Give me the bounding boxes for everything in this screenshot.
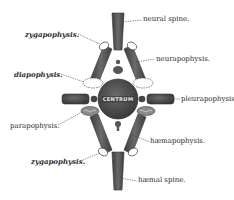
label-parapophysis: parapophysis. [10,123,59,130]
haemal-spine [112,152,124,190]
label-pleurapophysis: pleurapophysis. [181,96,234,103]
label-neural-spine: neural spine. [143,16,189,23]
centrum-label: CENTRUM [103,96,134,102]
label-haemapophysis: hæmapophysis. [150,138,205,145]
neural-spine [112,13,124,50]
vertebra-diagram: CENTRUM [0,0,234,200]
label-zygapophysis-upper: zygapophysis. [25,31,79,38]
haemapophysis [90,114,146,154]
haemal-canal [115,121,121,131]
label-zygapophysis-lower: zygapophysis. [31,158,85,165]
neural-canal [113,60,123,74]
neurapophysis [90,45,146,84]
label-haemal-spine: hæmal spine. [138,177,186,184]
centrum: CENTRUM [98,79,138,119]
label-neurapophysis: neurapophysis. [156,56,210,63]
label-diapophysis: diapophysis. [14,71,63,78]
